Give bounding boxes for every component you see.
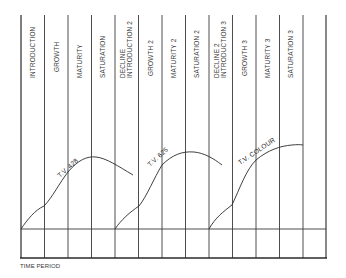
stage-label: GROWTH xyxy=(53,42,60,72)
stage-label: MATURITY 3 xyxy=(264,38,271,78)
stage-label: INTRODUCTION xyxy=(29,26,36,78)
stage-label: INTRODUCTION 2 xyxy=(126,21,133,78)
stage-label: SATURATION 3 xyxy=(287,30,294,78)
stage-label: SATURATION xyxy=(99,36,106,78)
product-life-cycle-diagram: INTRODUCTION GROWTH MATURITY SATURATION … xyxy=(0,0,346,278)
stage-label: INTRODUCTION 3 xyxy=(220,21,227,78)
curve-label-tv-625: T.V. 625 xyxy=(146,146,169,168)
curve-tv-625 xyxy=(115,152,222,229)
stage-label: SATURATION 2 xyxy=(193,30,200,78)
x-axis-title: TIME PERIOD xyxy=(20,263,60,269)
stage-label: DECLINE xyxy=(119,49,126,78)
stage-label: DECLINE 2 xyxy=(213,43,220,78)
stage-label: GROWTH 3 xyxy=(241,40,248,76)
curve-tv-428 xyxy=(21,157,133,229)
stage-label: MATURITY xyxy=(76,44,83,78)
stage-label: GROWTH 2 xyxy=(147,40,154,76)
stage-label: MATURITY 2 xyxy=(170,38,177,78)
stage-labels: INTRODUCTION GROWTH MATURITY SATURATION … xyxy=(29,21,294,78)
